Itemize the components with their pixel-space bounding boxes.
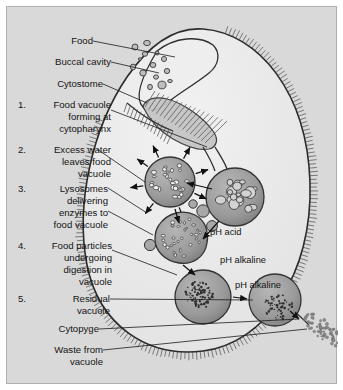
label-item-1: 1. Food vacuole forming at cytopharynx [18, 99, 111, 134]
label-column: Food Buccal cavity Cytostome 1. Food vac… [18, 35, 112, 367]
label-number-2: 2. [18, 144, 26, 155]
ph-label-alkaline-1: pH alkaline [220, 255, 266, 265]
water-loss-vacuole [145, 157, 195, 207]
lysosome-vacuole [155, 212, 208, 263]
label-buccal-cavity: Buccal cavity [55, 56, 111, 67]
label-item-3: 3. Lysosomes delivering enzymes to food … [18, 183, 108, 230]
label-cytopyge: Cytopyge [58, 323, 99, 334]
ph-label-alkaline-2: pH alkaline [235, 280, 281, 290]
label-5-line-2: vacuole [77, 305, 110, 316]
label-5-line-1: Residual [73, 293, 110, 304]
label-4-line-1: Food particles [52, 240, 112, 251]
label-3-line-1: Lysosomes [60, 183, 108, 194]
label-number-3: 3. [18, 183, 26, 194]
label-3-line-3: enzymes to [59, 207, 108, 218]
label-2-line-2: leaves food [62, 156, 111, 167]
label-1-line-1: Food vacuole [53, 99, 111, 110]
label-number-4: 4. [18, 240, 26, 251]
label-4-line-3: digestion in [63, 264, 112, 275]
label-waste-line-1: Waste from [54, 344, 103, 355]
label-3-line-4: food vacuole [54, 219, 108, 230]
ph-label-acid: pH acid [210, 227, 242, 237]
waste-particles [304, 313, 338, 348]
forming-food-vacuole [206, 168, 264, 226]
label-number-1: 1. [18, 99, 26, 110]
label-4-line-4: vacuole [79, 276, 112, 287]
label-food: Food [71, 35, 93, 46]
label-1-line-2: forming at [68, 111, 111, 122]
label-waste-line-2: vacuole [70, 356, 103, 367]
label-item-5: 5. Residual vacuole [18, 293, 110, 316]
diagram-stage: pH acid pH alkaline pH alkaline Food Buc… [7, 7, 338, 385]
label-2-line-3: vacuole [78, 168, 111, 179]
figure-panel: pH acid pH alkaline pH alkaline Food Buc… [6, 6, 337, 384]
cell-diagram: pH acid pH alkaline pH alkaline Food Buc… [7, 7, 338, 385]
label-1-line-3: cytopharynx [59, 123, 111, 134]
label-number-5: 5. [18, 293, 26, 304]
label-3-line-2: delivering [67, 195, 108, 206]
label-item-4: 4. Food particles undergoing digestion i… [18, 240, 112, 287]
label-4-line-2: undergoing [64, 252, 112, 263]
label-cytostome: Cytostome [57, 78, 103, 89]
digestion-vacuole [175, 270, 231, 324]
label-2-line-1: Excess water [54, 144, 112, 155]
label-item-2: 2. Excess water leaves food vacuole [18, 144, 112, 179]
